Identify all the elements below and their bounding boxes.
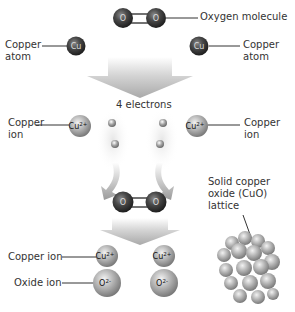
oxygen-molecule-top: O O <box>113 8 198 28</box>
copper-ion-bottom-left: Cu2+ <box>62 245 118 267</box>
label-copper-atom-right: Copper atom <box>243 39 279 63</box>
svg-text:O: O <box>120 198 126 207</box>
copper-ion-left: Cu2+ <box>36 115 91 137</box>
label-solid-lattice: Solid copper oxide (CuO) lattice <box>208 176 270 212</box>
label-copper-ion-bottom: Copper ion <box>8 251 62 263</box>
oxygen-molecule-middle: O O <box>113 192 167 213</box>
cuo-lattice <box>217 231 280 304</box>
oxide-ion-bottom-left: O2- <box>62 269 121 297</box>
label-copper-atom-left: Copper atom <box>5 39 41 63</box>
svg-text:Cu: Cu <box>71 42 82 51</box>
reaction-arrow-top <box>87 57 193 98</box>
label-oxygen-molecule: Oxygen molecule <box>200 11 287 23</box>
reaction-arrow-bottom <box>100 218 180 245</box>
label-electrons: 4 electrons <box>116 99 172 111</box>
svg-text:O: O <box>153 198 159 207</box>
copper-atom-right: Cu <box>190 37 241 56</box>
oxide-ion-bottom-right: O2- <box>150 269 178 297</box>
copper-atom-left: Cu <box>42 37 86 56</box>
label-oxide-ion-bottom: Oxide ion <box>14 277 61 289</box>
label-copper-ion-right: Copper ion <box>244 117 280 141</box>
svg-text:O: O <box>153 14 159 23</box>
copper-ion-bottom-right: Cu2+ <box>153 245 175 267</box>
svg-text:O: O <box>120 14 126 23</box>
copper-ion-right: Cu2+ <box>186 115 240 137</box>
svg-text:Cu: Cu <box>194 42 205 51</box>
label-copper-ion-left: Copper ion <box>8 117 44 141</box>
